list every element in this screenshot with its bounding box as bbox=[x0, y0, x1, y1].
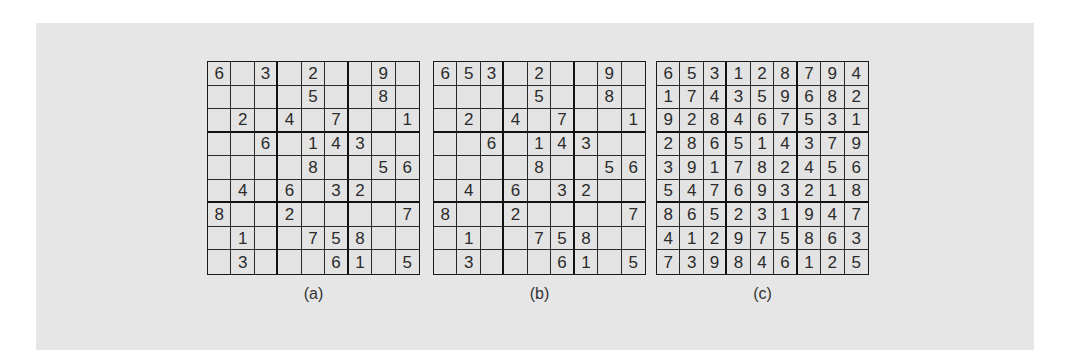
sudoku-cell bbox=[278, 156, 301, 180]
sudoku-cell: 6 bbox=[396, 156, 419, 180]
sudoku-cell bbox=[528, 109, 551, 133]
sudoku-cell: 2 bbox=[504, 203, 527, 227]
sudoku-figure-b: 653295824716143856463282717583615 (b) bbox=[433, 61, 646, 303]
sudoku-cell: 2 bbox=[302, 62, 325, 86]
sudoku-cell: 2 bbox=[845, 86, 868, 110]
sudoku-cell bbox=[434, 250, 457, 274]
sudoku-cell: 1 bbox=[396, 109, 419, 133]
sudoku-cell bbox=[434, 180, 457, 204]
sudoku-cell: 8 bbox=[208, 203, 231, 227]
sudoku-cell: 4 bbox=[727, 109, 750, 133]
sudoku-cell: 7 bbox=[751, 227, 774, 251]
sudoku-cell: 9 bbox=[751, 180, 774, 204]
sudoku-cell bbox=[372, 203, 395, 227]
sudoku-cell: 3 bbox=[349, 133, 372, 157]
sudoku-cell: 3 bbox=[231, 250, 254, 274]
sudoku-cell: 6 bbox=[278, 180, 301, 204]
sudoku-cell bbox=[278, 133, 301, 157]
sudoku-cell: 2 bbox=[657, 133, 680, 157]
sudoku-cell bbox=[278, 86, 301, 110]
sudoku-cell: 8 bbox=[704, 109, 727, 133]
sudoku-cell: 5 bbox=[598, 156, 621, 180]
sudoku-cell: 7 bbox=[774, 109, 797, 133]
sudoku-cell: 7 bbox=[302, 227, 325, 251]
sudoku-cell: 1 bbox=[821, 180, 844, 204]
sudoku-cell bbox=[622, 180, 645, 204]
sudoku-cell: 1 bbox=[845, 109, 868, 133]
sudoku-cell bbox=[372, 180, 395, 204]
sudoku-cell bbox=[255, 109, 278, 133]
sudoku-cell bbox=[504, 133, 527, 157]
sudoku-cell bbox=[255, 203, 278, 227]
sudoku-cell bbox=[349, 203, 372, 227]
sudoku-cell: 4 bbox=[680, 180, 703, 204]
sudoku-cell bbox=[278, 227, 301, 251]
sudoku-cell: 4 bbox=[231, 180, 254, 204]
sudoku-cell bbox=[481, 203, 504, 227]
sudoku-cell: 2 bbox=[528, 62, 551, 86]
sudoku-cell: 1 bbox=[302, 133, 325, 157]
sudoku-cell bbox=[481, 156, 504, 180]
caption-a: (a) bbox=[207, 285, 420, 303]
sudoku-cell: 8 bbox=[680, 133, 703, 157]
sudoku-cell: 2 bbox=[751, 62, 774, 86]
sudoku-cell bbox=[551, 86, 574, 110]
sudoku-cell: 3 bbox=[680, 250, 703, 274]
sudoku-cell: 8 bbox=[598, 86, 621, 110]
sudoku-cell: 2 bbox=[231, 109, 254, 133]
sudoku-cell: 7 bbox=[704, 180, 727, 204]
sudoku-cell: 6 bbox=[622, 156, 645, 180]
sudoku-cell bbox=[325, 86, 348, 110]
sudoku-cell: 5 bbox=[457, 62, 480, 86]
sudoku-cell: 7 bbox=[680, 86, 703, 110]
sudoku-cell: 7 bbox=[727, 156, 750, 180]
sudoku-cell: 1 bbox=[622, 109, 645, 133]
sudoku-cell: 7 bbox=[798, 62, 821, 86]
sudoku-cell: 4 bbox=[774, 133, 797, 157]
sudoku-cell: 1 bbox=[798, 250, 821, 274]
sudoku-cell bbox=[551, 156, 574, 180]
sudoku-cell: 2 bbox=[727, 203, 750, 227]
sudoku-cell: 7 bbox=[325, 109, 348, 133]
sudoku-cell: 5 bbox=[845, 250, 868, 274]
sudoku-cell bbox=[481, 109, 504, 133]
sudoku-cell: 5 bbox=[325, 227, 348, 251]
sudoku-cell bbox=[575, 86, 598, 110]
sudoku-cell: 6 bbox=[798, 86, 821, 110]
sudoku-cell: 9 bbox=[774, 86, 797, 110]
sudoku-cell: 5 bbox=[680, 62, 703, 86]
sudoku-cell bbox=[372, 250, 395, 274]
sudoku-cell: 9 bbox=[657, 109, 680, 133]
sudoku-cell bbox=[396, 180, 419, 204]
figure-panel: 63295824716143856463282717583615 (a) 653… bbox=[36, 23, 1034, 350]
sudoku-cell bbox=[255, 180, 278, 204]
sudoku-cell: 5 bbox=[657, 180, 680, 204]
sudoku-cell: 5 bbox=[821, 156, 844, 180]
sudoku-cell bbox=[302, 203, 325, 227]
sudoku-cell bbox=[575, 156, 598, 180]
sudoku-cell: 1 bbox=[751, 133, 774, 157]
sudoku-cell: 1 bbox=[680, 227, 703, 251]
sudoku-cell bbox=[504, 156, 527, 180]
sudoku-cell: 4 bbox=[457, 180, 480, 204]
sudoku-cell: 1 bbox=[349, 250, 372, 274]
sudoku-cell bbox=[278, 250, 301, 274]
sudoku-cell: 6 bbox=[657, 62, 680, 86]
sudoku-cell: 4 bbox=[751, 250, 774, 274]
sudoku-cell: 2 bbox=[821, 250, 844, 274]
sudoku-cell bbox=[208, 133, 231, 157]
sudoku-cell: 5 bbox=[704, 203, 727, 227]
sudoku-cell bbox=[457, 133, 480, 157]
sudoku-cell bbox=[349, 109, 372, 133]
sudoku-cell: 3 bbox=[821, 109, 844, 133]
sudoku-cell bbox=[231, 133, 254, 157]
sudoku-cell: 8 bbox=[575, 227, 598, 251]
sudoku-cell bbox=[396, 86, 419, 110]
sudoku-cell: 8 bbox=[657, 203, 680, 227]
sudoku-cell bbox=[325, 62, 348, 86]
sudoku-cell: 6 bbox=[680, 203, 703, 227]
sudoku-cell bbox=[551, 203, 574, 227]
sudoku-cell: 4 bbox=[278, 109, 301, 133]
sudoku-cell bbox=[504, 250, 527, 274]
sudoku-cell bbox=[208, 227, 231, 251]
